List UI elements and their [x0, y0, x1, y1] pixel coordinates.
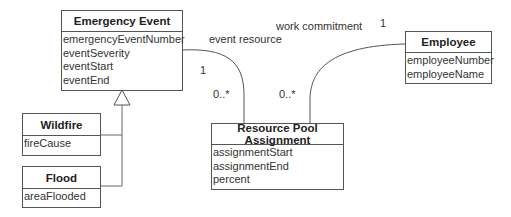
multiplicity-event: 1: [200, 64, 206, 76]
class-resource-pool-assignment[interactable]: Resource Pool Assignment assignmentStart…: [211, 123, 344, 190]
attribute: employeeName: [407, 68, 491, 82]
event-resource-association-line: [182, 50, 244, 123]
attribute: areaFlooded: [24, 190, 100, 204]
attribute: eventEnd: [63, 74, 182, 88]
class-name: Wildfire: [23, 114, 100, 136]
multiplicity-assignment-event: 0..*: [213, 88, 230, 100]
class-name: Resource Pool Assignment: [212, 124, 343, 145]
generalization-line: [100, 105, 122, 186]
class-name: Emergency Event: [62, 11, 182, 32]
attribute-list: assignmentStart assignmentEnd percent: [212, 145, 343, 187]
class-flood[interactable]: Flood areaFlooded: [22, 166, 101, 208]
attribute-list: emergencyEventNumber eventSeverity event…: [62, 32, 182, 87]
multiplicity-employee: 1: [380, 17, 386, 29]
attribute-list: fireCause: [23, 136, 100, 151]
work-commitment-association-line: [310, 44, 405, 123]
class-employee[interactable]: Employee employeeNumber employeeName: [405, 31, 492, 84]
attribute-list: areaFlooded: [23, 189, 100, 204]
class-name: Flood: [23, 167, 100, 189]
class-name: Employee: [406, 32, 491, 53]
attribute: assignmentStart: [213, 146, 343, 160]
attribute: fireCause: [24, 137, 100, 151]
attribute: emergencyEventNumber: [63, 33, 182, 47]
attribute: percent: [213, 173, 343, 187]
attribute: assignmentEnd: [213, 160, 343, 174]
attribute-list: employeeNumber employeeName: [406, 53, 491, 81]
attribute: employeeNumber: [407, 54, 491, 68]
attribute: eventStart: [63, 60, 182, 74]
class-emergency-event[interactable]: Emergency Event emergencyEventNumber eve…: [61, 10, 183, 91]
association-label-work-commitment: work commitment: [276, 20, 362, 32]
attribute: eventSeverity: [63, 47, 182, 61]
generalization-triangle-icon: [114, 90, 130, 105]
association-label-event-resource: event resource: [209, 33, 282, 45]
class-wildfire[interactable]: Wildfire fireCause: [22, 113, 101, 156]
multiplicity-assignment-employee: 0..*: [279, 88, 296, 100]
